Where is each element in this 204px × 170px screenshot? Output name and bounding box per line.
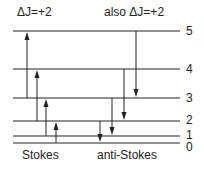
anti-stokes-arrow-5-to-3 — [134, 31, 139, 97]
level-label-0: 0 — [186, 141, 193, 153]
level-label-2: 2 — [186, 114, 193, 126]
stokes-arrow-2-to-4 — [35, 70, 40, 121]
level-label-3: 3 — [186, 92, 193, 104]
stokes-arrow-0-to-2 — [54, 122, 59, 143]
energy-level-diagram — [0, 0, 204, 170]
anti-stokes-caption: anti-Stokes — [97, 149, 157, 161]
stokes-caption: Stokes — [22, 149, 59, 161]
anti-stokes-arrow-3-to-1 — [110, 98, 115, 135]
stokes-arrow-3-to-5 — [25, 32, 30, 98]
level-label-5: 5 — [186, 25, 193, 37]
raman-energy-level-diagram: ΔJ=+2 also ΔJ=+2 5 4 3 2 1 0 Stokes anti… — [0, 0, 204, 170]
anti-stokes-arrow-2-to-0 — [98, 121, 103, 142]
anti-stokes-arrow-4-to-2 — [122, 69, 127, 120]
level-label-4: 4 — [186, 63, 193, 75]
stokes-arrow-1-to-3 — [44, 99, 49, 136]
